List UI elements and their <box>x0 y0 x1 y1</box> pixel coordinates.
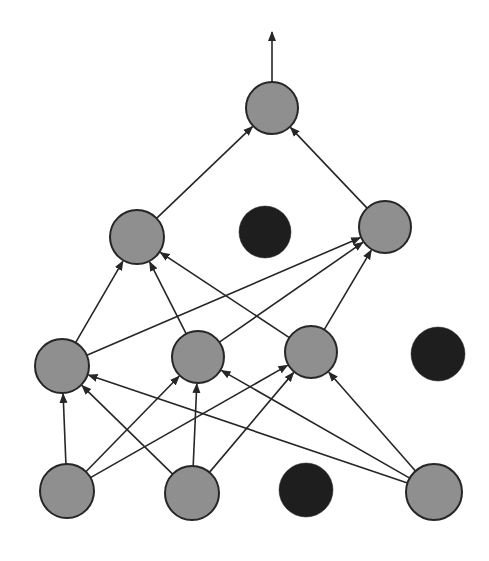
dropped-node-h1d <box>411 327 465 381</box>
edges-group <box>63 32 415 483</box>
node-h1a <box>35 339 89 393</box>
node-h2a <box>110 210 164 264</box>
node-out <box>246 82 298 134</box>
edge-h2a-to-out <box>157 127 253 219</box>
node-in_b <box>165 466 219 520</box>
node-in_a <box>40 464 94 518</box>
node-h1b <box>172 331 224 383</box>
edge-h1b-to-h2c <box>219 242 362 342</box>
edge-in_a-to-h1a <box>63 394 66 464</box>
dropped-node-h2b <box>239 206 291 258</box>
edge-h1a-to-h2a <box>76 261 123 342</box>
edge-h2c-to-out <box>291 128 368 209</box>
network-diagram <box>0 0 489 561</box>
edge-in_d-to-h1a <box>89 375 408 483</box>
edge-in_b-to-h1b <box>193 384 197 466</box>
edge-h1c-to-h2a <box>160 252 289 337</box>
edge-h1c-to-h2c <box>324 250 371 329</box>
node-h2c <box>359 201 411 253</box>
node-in_d <box>406 464 462 520</box>
dropped-node-in_c <box>279 463 333 517</box>
edge-h1b-to-h2a <box>150 262 187 334</box>
node-h1c <box>285 326 337 378</box>
